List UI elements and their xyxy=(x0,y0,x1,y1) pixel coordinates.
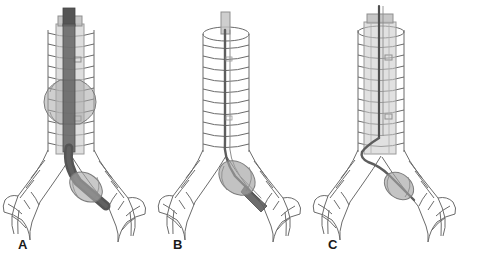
left-bronchus-b xyxy=(158,150,226,240)
left-bronchus-a xyxy=(3,150,71,240)
panel-a: A xyxy=(0,0,160,263)
panel-c-illustration xyxy=(310,0,470,263)
panel-c: C xyxy=(310,0,470,263)
panel-label-c: C xyxy=(328,238,338,251)
panel-label-b: B xyxy=(173,238,183,251)
panel-b: B xyxy=(155,0,315,263)
panel-label-a: A xyxy=(18,238,28,251)
figure-panel-group: A xyxy=(0,0,479,263)
panel-b-illustration xyxy=(155,0,315,263)
panel-a-illustration xyxy=(0,0,160,263)
